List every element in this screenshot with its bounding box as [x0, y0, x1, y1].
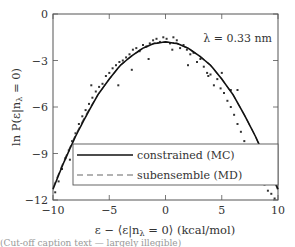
data-point — [117, 84, 119, 86]
y-tick-label: −6 — [32, 101, 48, 114]
data-point — [171, 49, 173, 51]
data-point — [240, 131, 242, 133]
data-point — [148, 58, 150, 60]
data-point — [221, 72, 223, 74]
x-tick-label: 10 — [271, 204, 285, 217]
x-axis-title-rest: = 0⟩ (kcal/mol) — [145, 223, 236, 237]
data-point — [243, 140, 245, 142]
y-axis-title-main: ln P(ε|n — [9, 101, 24, 146]
data-point — [95, 91, 97, 93]
data-point — [129, 53, 131, 55]
x-axis-title-main: ε − ⟨ε|n — [95, 223, 140, 238]
legend-label-subensemble: subensemble (MD) — [137, 169, 242, 182]
data-point — [105, 75, 107, 77]
data-point — [125, 56, 127, 58]
data-point — [189, 53, 191, 55]
data-point — [78, 123, 80, 125]
data-point — [179, 47, 181, 49]
data-point — [237, 123, 239, 125]
data-point — [162, 36, 164, 38]
data-point — [233, 114, 235, 116]
data-point — [90, 84, 92, 86]
data-point — [166, 38, 168, 40]
data-point — [118, 61, 120, 63]
data-point — [267, 190, 269, 192]
data-point — [176, 39, 178, 41]
y-tick-label: −9 — [32, 148, 48, 161]
data-point — [149, 42, 151, 44]
data-point — [115, 64, 117, 66]
y-axis-title-rest: = 0) — [9, 68, 23, 97]
chart-canvas: 0−3−6−9−12 −10−50510 λ = 0.33 nm constra… — [0, 0, 295, 247]
data-point — [108, 72, 110, 74]
x-tick-labels: −10−50510 — [41, 204, 285, 217]
data-point — [216, 78, 218, 80]
data-point — [54, 191, 56, 193]
data-point — [226, 100, 228, 102]
x-tick-label: 5 — [218, 204, 225, 217]
data-point — [220, 87, 222, 89]
data-point — [122, 60, 124, 62]
data-point — [85, 109, 87, 111]
data-point — [203, 66, 205, 68]
data-point — [237, 89, 239, 91]
data-point — [152, 39, 154, 41]
data-point — [172, 36, 174, 38]
data-point — [81, 115, 83, 117]
y-tick-labels: 0−3−6−9−12 — [25, 8, 48, 207]
data-point — [135, 47, 137, 49]
data-point — [112, 67, 114, 69]
figure-caption-fragment: (Cut-off caption text — largely illegibl… — [0, 239, 295, 247]
data-point — [213, 84, 215, 86]
data-point — [132, 49, 134, 51]
x-tick-label: 0 — [162, 204, 169, 217]
data-point — [91, 97, 93, 99]
y-tick-label: −3 — [32, 55, 48, 68]
data-point — [58, 180, 60, 182]
data-point — [156, 38, 158, 40]
data-point — [196, 61, 198, 63]
x-tick-label: −10 — [41, 204, 64, 217]
data-point — [69, 159, 71, 161]
data-point — [186, 49, 188, 51]
data-point — [131, 69, 133, 71]
data-point — [102, 83, 104, 85]
legend-label-constrained: constrained (MC) — [137, 149, 235, 162]
data-point — [98, 86, 100, 88]
data-point — [270, 193, 272, 195]
data-point — [230, 106, 232, 108]
y-tick-label: 0 — [41, 8, 48, 21]
data-point — [187, 64, 189, 66]
data-point — [207, 75, 209, 77]
data-point — [88, 103, 90, 105]
x-tick-label: −5 — [101, 204, 117, 217]
legend: constrained (MC) subensemble (MD) — [73, 144, 278, 185]
data-point — [206, 72, 208, 74]
lambda-annotation: λ = 0.33 nm — [203, 32, 272, 45]
data-point — [142, 44, 144, 46]
y-axis-title: ln P(ε|nλ = 0) — [9, 68, 24, 146]
data-point — [274, 198, 276, 200]
x-axis-title: ε − ⟨ε|nλ = 0⟩ (kcal/mol) — [95, 223, 235, 238]
data-point — [223, 92, 225, 94]
data-point — [210, 74, 212, 76]
